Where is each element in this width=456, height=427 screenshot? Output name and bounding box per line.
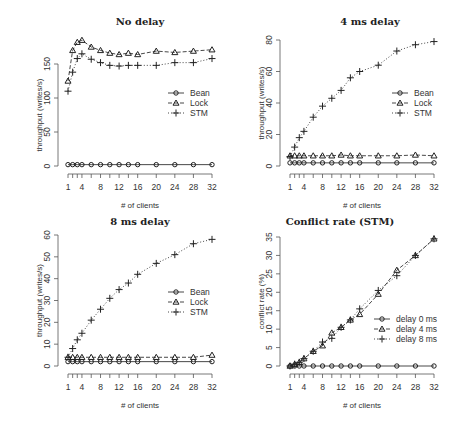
legend-label: Lock [190,297,209,307]
y-axis-label: conflict rate (%) [257,273,266,329]
x-tick-label: 8 [98,182,103,192]
series-lock [65,37,215,83]
x-tick-label: 1 [66,382,71,392]
y-tick-label: 10 [42,339,52,349]
x-axis-label: # of clients [121,201,159,210]
y-axis: 050100150throughput (writes/s) [35,57,58,169]
x-tick-label: 16 [355,182,365,192]
x-tick-label: 4 [80,182,85,192]
x-tick-label: 32 [429,382,439,392]
y-tick-label: 60 [42,230,52,240]
y-axis-label: throughput (writes/s) [257,66,266,139]
x-tick-label: 32 [429,182,439,192]
x-tick-label: 4 [302,382,307,392]
x-tick-label: 20 [152,182,162,192]
legend-label: Lock [414,98,433,108]
y-tick-label: 0 [42,363,52,368]
x-tick-label: 16 [133,182,143,192]
y-axis: 05101520253035conflict rate (%) [257,232,280,368]
x-tick-label: 20 [374,382,384,392]
y-axis: 020406080throughput (writes/s) [257,35,280,168]
y-tick-label: 50 [42,252,52,262]
panel-8ms-delay: 8 ms delay0102030405060throughput (write… [35,216,217,410]
x-tick-label: 28 [411,382,421,392]
x-tick-label: 1 [288,182,293,192]
series-bean [66,359,214,363]
legend-label: delay 8 ms [396,334,437,344]
chart-title: 4 ms delay [340,16,401,27]
x-axis-label: # of clients [121,401,159,410]
x-tick-label: 12 [114,182,124,192]
x-axis-label: # of clients [343,401,381,410]
x-tick-label: 20 [152,382,162,392]
chart-title: Conflict rate (STM) [286,216,395,227]
x-axis: 148121620242832# of clients [288,174,439,210]
legend: BeanLockSTM [168,88,210,118]
chart-title: 8 ms delay [110,216,171,227]
y-tick-label: 0 [264,363,274,368]
x-axis-label: # of clients [343,201,381,210]
series-lock [287,152,437,158]
x-tick-label: 8 [320,382,325,392]
x-axis: 148121620242832# of clients [66,374,217,410]
panel-4ms-delay: 4 ms delay020406080throughput (writes/s)… [257,16,439,210]
x-tick-label: 20 [374,182,384,192]
panel-no-delay: No delay050100150throughput (writes/s)14… [35,16,217,210]
x-tick-label: 12 [336,382,346,392]
x-tick-label: 16 [133,382,143,392]
series-delay-8-ms [287,235,438,369]
x-tick-label: 1 [288,382,293,392]
series-lock [65,352,215,359]
legend-label: Bean [190,88,210,98]
y-axis-label: throughput (writes/s) [35,78,44,151]
legend-label: Bean [414,88,434,98]
legend-label: Lock [190,98,209,108]
x-tick-label: 8 [98,382,103,392]
legend: BeanLockSTM [168,287,210,317]
x-tick-label: 32 [207,382,217,392]
x-tick-label: 4 [80,382,85,392]
figure: No delay050100150throughput (writes/s)14… [0,0,456,427]
x-tick-label: 8 [320,182,325,192]
legend: delay 0 msdelay 4 msdelay 8 ms [374,314,437,344]
x-tick-label: 16 [355,382,365,392]
legend-label: delay 4 ms [396,324,437,334]
y-axis: 0102030405060throughput (writes/s) [35,230,58,368]
x-tick-label: 4 [302,182,307,192]
y-tick-label: 5 [264,345,274,350]
legend-label: STM [190,108,208,118]
chart-title: No delay [116,16,166,27]
y-tick-label: 35 [264,232,274,242]
y-tick-label: 80 [264,35,274,45]
series-delay-0-ms [288,364,436,368]
legend-label: STM [414,108,432,118]
y-tick-label: 150 [42,57,52,71]
x-tick-label: 24 [392,382,402,392]
legend-label: STM [190,307,208,317]
x-axis: 148121620242832# of clients [288,374,439,410]
y-axis-label: throughput (writes/s) [35,264,44,337]
legend-label: delay 0 ms [396,314,437,324]
x-tick-label: 12 [114,382,124,392]
panel-conflict-rate: Conflict rate (STM)05101520253035conflic… [257,216,439,410]
x-tick-label: 1 [66,182,71,192]
y-tick-label: 30 [264,250,274,260]
x-tick-label: 24 [392,182,402,192]
x-axis: 148121620242832# of clients [66,174,217,210]
series-bean [288,161,436,165]
y-tick-label: 0 [42,163,52,168]
x-tick-label: 28 [189,382,199,392]
series-bean [66,162,214,166]
legend: BeanLockSTM [392,88,434,118]
x-tick-label: 28 [189,182,199,192]
x-tick-label: 24 [170,382,180,392]
x-tick-label: 12 [336,182,346,192]
y-tick-label: 0 [264,163,274,168]
x-tick-label: 24 [170,182,180,192]
legend-label: Bean [190,287,210,297]
x-tick-label: 32 [207,182,217,192]
x-tick-label: 28 [411,182,421,192]
